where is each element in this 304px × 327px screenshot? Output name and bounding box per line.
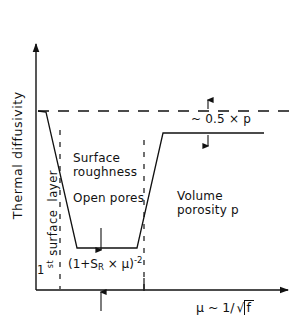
first-surface-layer-label: st surface layer — [46, 154, 60, 284]
open-pores-label: Open pores — [73, 192, 144, 206]
thermal-diffusivity-figure: Thermal diffusivity μ ~ 1/√f st surface … — [0, 0, 304, 327]
surface-roughness-line2: roughness — [73, 166, 137, 180]
surface-roughness-line1: Surface — [73, 152, 137, 166]
trough-formula-label: (1+SR × μ)-2 — [68, 256, 142, 272]
superscript-st: st — [46, 260, 55, 268]
formula-mid: × μ) — [104, 257, 134, 271]
sqrt-symbol: √f — [235, 300, 254, 315]
surface-roughness-label: Surface roughness — [73, 152, 137, 180]
formula-exponent: -2 — [134, 255, 142, 265]
x-axis-label-mu: μ ~ 1/ — [196, 300, 235, 315]
volume-porosity-line1: Volume — [177, 190, 239, 204]
half-p-label: ~ 0.5 × p — [191, 113, 251, 127]
diffusivity-curve — [38, 111, 264, 248]
first-surface-layer-numeral: 1 — [37, 264, 44, 277]
first-surface-layer-text: surface layer — [46, 170, 60, 260]
sqrt-argument: f — [244, 300, 254, 315]
volume-porosity-label: Volume porosity p — [177, 190, 239, 218]
volume-porosity-line2: porosity p — [177, 204, 239, 218]
formula-base: (1+S — [68, 257, 98, 271]
y-axis-label: Thermal diffusivity — [11, 75, 25, 235]
x-axis-label: μ ~ 1/√f — [196, 300, 254, 315]
